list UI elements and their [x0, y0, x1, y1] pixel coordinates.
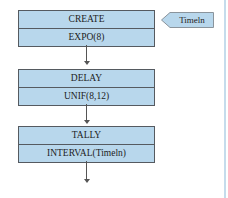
tally-block-name: TALLY [19, 127, 154, 145]
side-rule [224, 0, 226, 198]
create-block-operand: EXPO(8) [19, 29, 154, 46]
connector-line [86, 161, 87, 180]
arrow-down-icon [84, 61, 90, 65]
delay-block-operand: UNIF(8,12) [19, 88, 154, 105]
attribute-tag-label: Timeln [171, 12, 213, 28]
connector-line [86, 104, 87, 121]
tally-block-operand: INTERVAL(Timeln) [19, 145, 154, 162]
create-block-name: CREATE [19, 11, 154, 29]
arrow-down-icon [84, 120, 90, 124]
delay-block-name: DELAY [19, 70, 154, 88]
create-block: CREATE EXPO(8) [18, 10, 155, 47]
tally-block: TALLY INTERVAL(Timeln) [18, 126, 155, 163]
connector-line [86, 45, 87, 62]
delay-block: DELAY UNIF(8,12) [18, 69, 155, 106]
arrow-down-icon [84, 179, 90, 183]
attribute-tag: Timeln [161, 12, 214, 28]
